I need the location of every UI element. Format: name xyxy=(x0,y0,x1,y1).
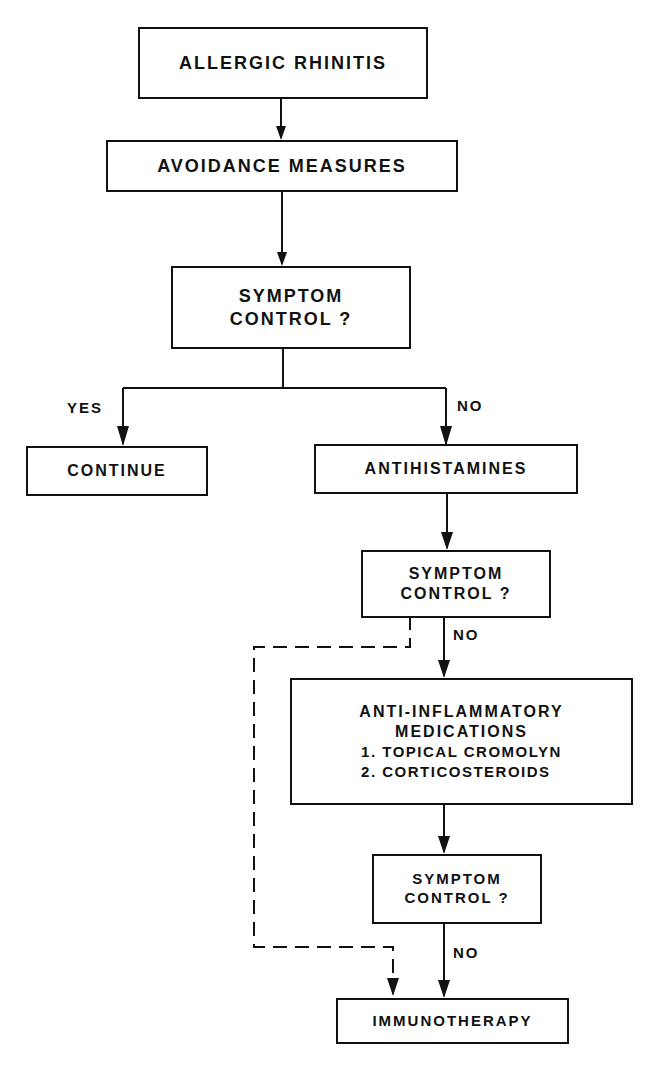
dashed-arrow-check2-to-immunotherapy xyxy=(254,616,410,994)
node-symptom-control-3: SYMPTOM CONTROL ? xyxy=(372,854,542,924)
edge-label-no-3: NO xyxy=(453,944,480,961)
medication-list: 1. TOPICAL CROMOLYN 2. CORTICOSTEROIDS xyxy=(361,742,562,781)
node-allergic-rhinitis: ALLERGIC RHINITIS xyxy=(138,27,428,99)
node-label-line2: CONTROL ? xyxy=(404,889,509,908)
node-antihistamines: ANTIHISTAMINES xyxy=(314,444,578,494)
edge-label-no-1: NO xyxy=(457,397,484,414)
node-symptom-control-1: SYMPTOM CONTROL ? xyxy=(171,266,411,349)
node-continue: CONTINUE xyxy=(26,446,208,496)
node-symptom-control-2: SYMPTOM CONTROL ? xyxy=(361,550,551,618)
node-label-line2: CONTROL ? xyxy=(230,308,353,331)
node-label-line1: SYMPTOM xyxy=(239,285,344,308)
branch-check1 xyxy=(123,347,446,388)
node-label-line2: CONTROL ? xyxy=(400,584,511,604)
medication-item-1: 1. TOPICAL CROMOLYN xyxy=(361,742,562,762)
node-label: IMMUNOTHERAPY xyxy=(372,1012,532,1031)
node-label: ANTIHISTAMINES xyxy=(365,459,528,479)
medication-item-2: 2. CORTICOSTEROIDS xyxy=(361,762,562,782)
node-anti-inflammatory-medications: ANTI-INFLAMMATORY MEDICATIONS 1. TOPICAL… xyxy=(290,678,633,805)
edge-label-yes: YES xyxy=(67,399,103,416)
edge-label-no-2: NO xyxy=(453,626,480,643)
node-label-line1: SYMPTOM xyxy=(412,870,502,889)
node-label-line2: MEDICATIONS xyxy=(395,722,528,742)
node-immunotherapy: IMMUNOTHERAPY xyxy=(336,998,569,1044)
node-label-line1: ANTI-INFLAMMATORY xyxy=(359,702,563,722)
node-label: CONTINUE xyxy=(67,461,167,481)
node-avoidance-measures: AVOIDANCE MEASURES xyxy=(106,140,458,192)
node-label: AVOIDANCE MEASURES xyxy=(157,155,407,178)
node-label-line1: SYMPTOM xyxy=(409,564,504,584)
node-label: ALLERGIC RHINITIS xyxy=(179,52,387,75)
